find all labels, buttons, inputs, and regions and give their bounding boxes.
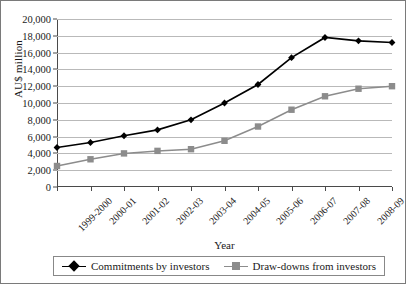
diamond-marker-icon xyxy=(62,261,86,271)
legend-label: Draw-downs from investors xyxy=(253,260,376,272)
y-tick-label: 20,000 xyxy=(22,14,51,25)
y-tick-label: 14,000 xyxy=(22,64,51,75)
data-point xyxy=(389,39,396,46)
series-line xyxy=(57,86,392,166)
y-tick-label: 18,000 xyxy=(22,30,51,41)
data-point xyxy=(322,93,328,99)
legend-label: Commitments by investors xyxy=(91,260,210,272)
x-tick-label: 2006-07 xyxy=(307,195,338,226)
data-point xyxy=(389,83,395,89)
data-point xyxy=(355,37,362,44)
data-point xyxy=(121,150,127,156)
data-point xyxy=(188,146,194,152)
x-tick-mark xyxy=(392,187,393,191)
data-point xyxy=(221,100,228,107)
x-tick-mark xyxy=(225,187,226,191)
x-tick-label: 2007-08 xyxy=(341,195,372,226)
x-tick-label: 2002-03 xyxy=(173,195,204,226)
x-tick-label: 2004-05 xyxy=(240,195,271,226)
data-point xyxy=(355,86,361,92)
x-tick-mark xyxy=(191,187,192,191)
data-point xyxy=(87,139,94,146)
x-tick-mark xyxy=(158,187,159,191)
x-tick-label: 2005-06 xyxy=(274,195,305,226)
x-tick-mark xyxy=(57,187,58,191)
y-tick-label: 8,000 xyxy=(27,114,51,125)
legend-entry-2: Draw-downs from investors xyxy=(224,260,376,272)
data-point xyxy=(87,156,93,162)
data-point xyxy=(121,132,128,139)
series-layer xyxy=(57,19,392,187)
chart-legend: Commitments by investorsDraw-downs from … xyxy=(53,256,385,276)
y-tick-label: 6,000 xyxy=(27,131,51,142)
series-2 xyxy=(54,83,395,169)
data-point xyxy=(288,107,294,113)
y-tick-label: 0 xyxy=(46,182,51,193)
x-tick-mark xyxy=(325,187,326,191)
y-tick-label: 10,000 xyxy=(22,98,51,109)
x-tick-label: 1999-2000 xyxy=(76,195,114,233)
data-point xyxy=(154,148,160,154)
data-point xyxy=(54,144,61,151)
legend-entry-1: Commitments by investors xyxy=(62,260,210,272)
y-tick-label: 2,000 xyxy=(27,165,51,176)
x-tick-label: 2008-09 xyxy=(374,195,405,226)
data-point xyxy=(221,138,227,144)
x-tick-mark xyxy=(292,187,293,191)
x-tick-mark xyxy=(359,187,360,191)
x-tick-label: 2001-02 xyxy=(140,195,171,226)
y-tick-label: 4,000 xyxy=(27,148,51,159)
x-tick-label: 2003-04 xyxy=(207,195,238,226)
plot-area: 02,0004,0006,0008,00010,00012,00014,0001… xyxy=(57,19,392,187)
data-point xyxy=(255,123,261,129)
x-axis-title: Year xyxy=(57,239,392,251)
chart-figure: AU$ million 02,0004,0006,0008,00010,0001… xyxy=(0,0,406,284)
square-marker-icon xyxy=(224,261,248,271)
x-tick-mark xyxy=(258,187,259,191)
data-point xyxy=(54,163,60,169)
x-tick-mark xyxy=(124,187,125,191)
y-tick-label: 16,000 xyxy=(22,47,51,58)
x-tick-mark xyxy=(91,187,92,191)
data-point xyxy=(188,116,195,123)
y-tick-label: 12,000 xyxy=(22,81,51,92)
data-point xyxy=(154,126,161,133)
